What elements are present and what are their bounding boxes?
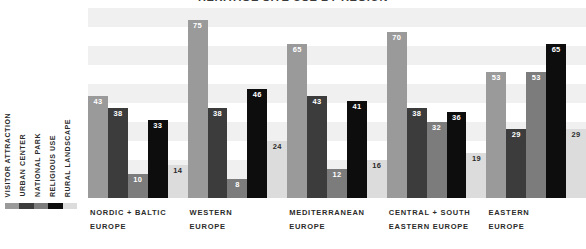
bar-value-label: 53 bbox=[486, 74, 506, 82]
bar[interactable]: 70 bbox=[387, 32, 407, 198]
bar[interactable]: 12 bbox=[327, 169, 347, 198]
bar-slot: 32 bbox=[427, 8, 447, 198]
bar[interactable]: 38 bbox=[108, 108, 128, 198]
plot-area: 4338103314753884624654312411670383236195… bbox=[88, 8, 586, 198]
bar-slot: 8 bbox=[227, 8, 247, 198]
category-label-line: EUROPE bbox=[488, 220, 586, 234]
bar-value-label: 29 bbox=[506, 131, 526, 139]
bar-slot: 65 bbox=[546, 8, 566, 198]
bar-value-label: 32 bbox=[427, 124, 447, 132]
bar-slot: 36 bbox=[447, 8, 467, 198]
bar-value-label: 41 bbox=[347, 103, 367, 111]
bar[interactable]: 29 bbox=[566, 129, 586, 198]
legend-swatch bbox=[48, 203, 62, 209]
bar[interactable]: 8 bbox=[227, 179, 247, 198]
bar-set: 7038323619 bbox=[387, 8, 487, 198]
bar-slot: 38 bbox=[108, 8, 128, 198]
bar-group: 753884624 bbox=[188, 8, 288, 198]
category-label-line: EUROPE bbox=[289, 220, 387, 234]
chart-legend: VISITOR ATTRACTIONURBAN CENTERNATIONAL P… bbox=[4, 104, 82, 209]
bar-group: 4338103314 bbox=[88, 8, 188, 198]
bar-slot: 29 bbox=[566, 8, 586, 198]
bar-value-label: 19 bbox=[466, 155, 486, 163]
bar-slot: 65 bbox=[287, 8, 307, 198]
category-label: WESTERNEUROPE bbox=[188, 206, 288, 246]
legend-label: NATIONAL PARK bbox=[34, 133, 41, 197]
bar[interactable]: 41 bbox=[347, 101, 367, 198]
bar-value-label: 33 bbox=[148, 122, 168, 130]
bar-set: 6543124116 bbox=[287, 8, 387, 198]
bar-slot: 70 bbox=[387, 8, 407, 198]
bar-value-label: 29 bbox=[566, 131, 586, 139]
legend-swatch bbox=[34, 203, 48, 209]
bar[interactable]: 53 bbox=[526, 72, 546, 198]
bar-value-label: 16 bbox=[367, 162, 387, 170]
bar-value-label: 24 bbox=[267, 143, 287, 151]
legend-label: RELIGIOUS USE bbox=[49, 135, 56, 197]
legend-swatch bbox=[19, 203, 33, 209]
bar-slot: 29 bbox=[506, 8, 526, 198]
bar-value-label: 10 bbox=[128, 176, 148, 184]
bar[interactable]: 65 bbox=[287, 44, 307, 198]
bar-value-label: 70 bbox=[387, 34, 407, 42]
bar[interactable]: 36 bbox=[447, 112, 467, 198]
category-label-line: EASTERN EUROPE bbox=[389, 220, 487, 234]
category-label: CENTRAL + SOUTHEASTERN EUROPE bbox=[387, 206, 487, 246]
category-label: NORDIC + BALTICEUROPE bbox=[88, 206, 188, 246]
bar-chart: HERITAGE SITE USE BY REGION VISITOR ATTR… bbox=[0, 0, 586, 249]
bar-group: 6543124116 bbox=[287, 8, 387, 198]
bar-value-label: 12 bbox=[327, 171, 347, 179]
bar-slot: 53 bbox=[486, 8, 506, 198]
bar-value-label: 38 bbox=[108, 110, 128, 118]
bar[interactable]: 10 bbox=[128, 174, 148, 198]
bar[interactable]: 32 bbox=[427, 122, 447, 198]
category-label: MEDITERRANEANEUROPE bbox=[287, 206, 387, 246]
bar[interactable]: 75 bbox=[188, 20, 208, 198]
bar-group: 7038323619 bbox=[387, 8, 487, 198]
x-axis-category-labels: NORDIC + BALTICEUROPEWESTERNEUROPEMEDITE… bbox=[88, 206, 586, 246]
bar-slot: 16 bbox=[367, 8, 387, 198]
bar-group: 5329536529 bbox=[486, 8, 586, 198]
bar-value-label: 46 bbox=[247, 91, 267, 99]
bar-slot: 33 bbox=[148, 8, 168, 198]
legend-label: VISITOR ATTRACTION bbox=[4, 113, 11, 197]
bar-slot: 14 bbox=[168, 8, 188, 198]
bar[interactable]: 14 bbox=[168, 165, 188, 198]
bar[interactable]: 29 bbox=[506, 129, 526, 198]
bar-slot: 41 bbox=[347, 8, 367, 198]
category-label-line: NORDIC + BALTIC bbox=[90, 206, 188, 220]
category-label-line: EUROPE bbox=[90, 220, 188, 234]
bar-value-label: 43 bbox=[307, 98, 327, 106]
bar-slot: 19 bbox=[466, 8, 486, 198]
category-label-line: WESTERN bbox=[190, 206, 288, 220]
bar-slot: 24 bbox=[267, 8, 287, 198]
category-label: EASTERNEUROPE bbox=[486, 206, 586, 246]
bar-slot: 12 bbox=[327, 8, 347, 198]
bar-value-label: 65 bbox=[546, 46, 566, 54]
bar[interactable]: 46 bbox=[247, 89, 267, 198]
bar[interactable]: 19 bbox=[466, 153, 486, 198]
bar-slot: 53 bbox=[526, 8, 546, 198]
bar[interactable]: 33 bbox=[148, 120, 168, 198]
category-label-line: EUROPE bbox=[190, 220, 288, 234]
chart-title: HERITAGE SITE USE BY REGION bbox=[0, 0, 586, 3]
bar[interactable]: 38 bbox=[208, 108, 228, 198]
category-label-line: CENTRAL + SOUTH bbox=[389, 206, 487, 220]
bar[interactable]: 16 bbox=[367, 160, 387, 198]
legend-swatch bbox=[5, 203, 19, 209]
bar-group-list: 4338103314753884624654312411670383236195… bbox=[88, 8, 586, 198]
category-label-line: MEDITERRANEAN bbox=[289, 206, 387, 220]
bar[interactable]: 65 bbox=[546, 44, 566, 198]
bar-value-label: 53 bbox=[526, 74, 546, 82]
bar[interactable]: 24 bbox=[267, 141, 287, 198]
bar-value-label: 65 bbox=[287, 46, 307, 54]
bar[interactable]: 43 bbox=[307, 96, 327, 198]
bar[interactable]: 43 bbox=[88, 96, 108, 198]
bar-set: 5329536529 bbox=[486, 8, 586, 198]
bar-value-label: 8 bbox=[227, 181, 247, 189]
bar[interactable]: 38 bbox=[407, 108, 427, 198]
bar[interactable]: 53 bbox=[486, 72, 506, 198]
legend-swatch-bar bbox=[5, 203, 77, 209]
legend-label: URBAN CENTER bbox=[19, 134, 26, 197]
bar-value-label: 43 bbox=[88, 98, 108, 106]
